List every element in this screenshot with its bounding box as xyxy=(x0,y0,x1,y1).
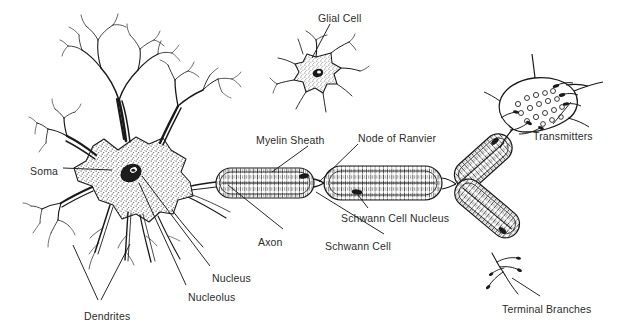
myelin-segment-2 xyxy=(324,166,442,200)
neuron-diagram-canvas xyxy=(0,0,628,330)
receptor-pins xyxy=(501,83,581,134)
dendrite-right-lower xyxy=(188,197,226,218)
glial-nucleolus xyxy=(317,71,321,74)
dendrite-trunk-left xyxy=(67,136,96,155)
leader-glial xyxy=(312,24,330,58)
label-transmitters: Transmitters xyxy=(533,130,593,142)
label-schwann-cell: Schwann Cell xyxy=(325,240,391,252)
label-node-of-ranvier: Node of Ranvier xyxy=(358,132,436,144)
label-nucleus: Nucleus xyxy=(212,272,251,284)
neuron-diagram-page: Soma Dendrites Nucleolus Nucleus Axon Gl… xyxy=(0,0,628,330)
leader-dendrites-right xyxy=(101,244,130,300)
label-dendrites: Dendrites xyxy=(84,310,130,322)
label-axon: Axon xyxy=(258,236,283,248)
leader-terminal-branches xyxy=(512,278,540,296)
label-nucleolus: Nucleolus xyxy=(188,291,235,303)
axon-initial-segment xyxy=(191,182,216,190)
soma-group xyxy=(74,137,193,222)
dendrite-trunk-right xyxy=(160,106,178,143)
terminal-branches-group xyxy=(485,253,522,294)
nucleolus-core xyxy=(131,169,135,172)
label-soma: Soma xyxy=(30,165,58,177)
myelin-segment-1 xyxy=(216,168,314,198)
label-glial-cell: Glial Cell xyxy=(318,12,362,24)
label-terminal-branches: Terminal Branches xyxy=(502,303,592,315)
label-myelin-sheath: Myelin Sheath xyxy=(256,134,325,146)
axon-fork xyxy=(442,178,456,189)
label-schwann-cell-nucleus: Schwann Cell Nucleus xyxy=(341,212,449,224)
transmitter-vesicles xyxy=(515,89,564,127)
node-of-ranvier-1 xyxy=(314,179,324,187)
dendrite-lower-5 xyxy=(172,210,203,247)
myelin-branch-lower xyxy=(449,173,525,243)
dendrite-trunk-lower-left xyxy=(61,187,92,203)
